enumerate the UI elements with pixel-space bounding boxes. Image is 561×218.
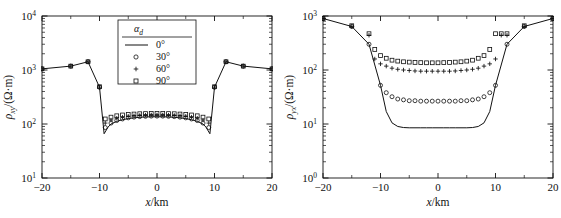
data-marker-plus bbox=[470, 67, 474, 71]
data-marker-open-square bbox=[459, 60, 463, 64]
data-marker-open-square bbox=[396, 59, 400, 63]
y-tick-label: 101 bbox=[302, 117, 317, 130]
data-marker-plus bbox=[396, 67, 400, 71]
x-tick-label: −20 bbox=[33, 181, 51, 193]
data-marker-open-circle bbox=[471, 98, 475, 102]
data-marker-open-square bbox=[430, 61, 434, 65]
x-axis-title: x/km bbox=[145, 196, 169, 208]
y-axis-title: ρyx/(Ω·m) bbox=[283, 75, 298, 121]
plot-frame bbox=[323, 16, 553, 178]
y-axis-title: ρxy/(Ω·m) bbox=[2, 75, 17, 121]
data-marker-open-square bbox=[436, 61, 440, 65]
data-marker-plus bbox=[390, 66, 394, 70]
data-marker-plus bbox=[465, 68, 469, 72]
data-marker-open-square bbox=[494, 32, 498, 36]
data-marker-plus bbox=[378, 62, 382, 66]
data-marker-open-square bbox=[390, 58, 394, 62]
data-series-30deg bbox=[321, 16, 555, 103]
data-marker-plus bbox=[424, 69, 428, 73]
data-marker-open-circle bbox=[430, 99, 434, 103]
x-axis-title: x/km bbox=[426, 196, 450, 208]
data-marker-plus bbox=[476, 66, 480, 70]
data-marker-open-square bbox=[407, 60, 411, 64]
data-marker-plus bbox=[453, 69, 457, 73]
plot-panel-left: 101102103104−20−1001020x/kmρxy/(Ω·m)αd0°… bbox=[0, 0, 280, 218]
data-marker-open-square bbox=[482, 54, 486, 58]
data-marker-open-circle bbox=[384, 91, 388, 95]
data-marker-open-square bbox=[379, 54, 383, 58]
data-marker-open-circle bbox=[390, 95, 394, 99]
y-tick-label: 102 bbox=[21, 117, 36, 130]
legend-box: αd0°30°60°90° bbox=[118, 20, 196, 86]
y-tick-label: 104 bbox=[21, 9, 36, 22]
data-marker-plus bbox=[430, 69, 434, 73]
x-tick-label: −10 bbox=[372, 181, 390, 193]
y-tick-label: 103 bbox=[21, 63, 36, 76]
data-marker-plus bbox=[413, 69, 417, 73]
data-marker-plus bbox=[103, 121, 107, 125]
data-marker-open-circle bbox=[407, 99, 411, 103]
x-tick-label: 10 bbox=[490, 181, 502, 193]
x-tick-label: 0 bbox=[154, 181, 160, 193]
data-marker-open-circle bbox=[476, 97, 480, 101]
data-marker-plus bbox=[436, 69, 440, 73]
plot-svg-left: 101102103104−20−1001020x/kmρxy/(Ω·m)αd0°… bbox=[0, 0, 280, 218]
y-tick-label: 103 bbox=[302, 9, 317, 22]
data-marker-plus bbox=[401, 68, 405, 72]
x-tick-label: 20 bbox=[267, 181, 279, 193]
data-marker-open-square bbox=[465, 59, 469, 63]
data-marker-plus bbox=[482, 64, 486, 68]
data-marker-open-square bbox=[207, 117, 211, 121]
data-marker-open-square bbox=[453, 60, 457, 64]
y-tick-label: 102 bbox=[302, 63, 317, 76]
data-marker-open-square bbox=[402, 60, 406, 64]
x-tick-label: −20 bbox=[314, 181, 332, 193]
data-series-90deg bbox=[321, 17, 555, 65]
data-marker-open-circle bbox=[448, 99, 452, 103]
data-marker-plus bbox=[384, 64, 388, 68]
plot-svg-right: 100101102103−20−1001020x/kmρyx/(Ω·m) bbox=[281, 0, 561, 218]
data-marker-open-circle bbox=[488, 91, 492, 95]
data-marker-open-square bbox=[476, 56, 480, 60]
data-marker-plus bbox=[407, 68, 411, 72]
x-tick-label: 0 bbox=[435, 181, 441, 193]
data-marker-open-square bbox=[471, 58, 475, 62]
data-marker-open-square bbox=[425, 61, 429, 65]
data-marker-plus bbox=[447, 69, 451, 73]
data-marker-plus bbox=[493, 57, 497, 61]
data-marker-open-square bbox=[442, 61, 446, 65]
data-marker-open-circle bbox=[419, 99, 423, 103]
data-marker-open-circle bbox=[402, 98, 406, 102]
data-marker-open-square bbox=[448, 61, 452, 65]
legend-entry-label: 30° bbox=[156, 51, 170, 62]
data-marker-open-square bbox=[488, 48, 492, 52]
x-tick-label: 10 bbox=[209, 181, 221, 193]
data-marker-plus bbox=[459, 68, 463, 72]
x-tick-label: 20 bbox=[548, 181, 560, 193]
legend-entry-label: 90° bbox=[156, 75, 170, 86]
data-marker-open-circle bbox=[453, 99, 457, 103]
data-marker-open-square bbox=[373, 48, 377, 52]
x-tick-label: −10 bbox=[91, 181, 109, 193]
data-marker-open-circle bbox=[459, 99, 463, 103]
data-marker-open-circle bbox=[396, 97, 400, 101]
data-marker-open-circle bbox=[425, 99, 429, 103]
data-marker-plus bbox=[442, 69, 446, 73]
data-marker-open-square bbox=[103, 117, 107, 121]
data-marker-open-circle bbox=[442, 99, 446, 103]
plot-panel-right: 100101102103−20−1001020x/kmρyx/(Ω·m) bbox=[281, 0, 561, 218]
data-marker-open-square bbox=[384, 56, 388, 60]
data-marker-open-circle bbox=[413, 99, 417, 103]
data-marker-plus bbox=[419, 69, 423, 73]
data-marker-plus bbox=[488, 62, 492, 66]
legend-entry-label: 60° bbox=[156, 63, 170, 74]
data-marker-open-circle bbox=[465, 99, 469, 103]
data-marker-open-circle bbox=[436, 99, 440, 103]
data-marker-open-square bbox=[419, 61, 423, 65]
data-marker-open-circle bbox=[482, 95, 486, 99]
data-marker-plus bbox=[207, 121, 211, 125]
figure-container: 101102103104−20−1001020x/kmρxy/(Ω·m)αd0°… bbox=[0, 0, 561, 218]
data-marker-open-square bbox=[413, 61, 417, 65]
legend-entry-label: 0° bbox=[156, 39, 165, 50]
